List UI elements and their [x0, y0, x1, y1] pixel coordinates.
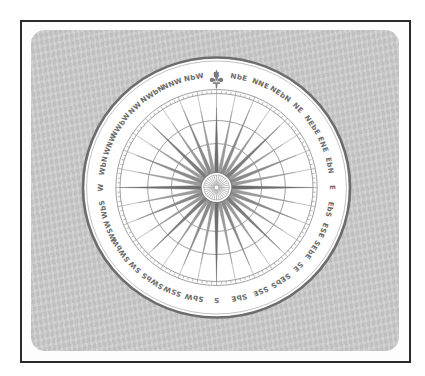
compass-label-e: E [328, 185, 337, 190]
compass-label-w: W [96, 183, 105, 191]
compass-rose: NNbENNENEbNNENEbEENEEbNEEbSESESEbESESEbS… [0, 0, 425, 376]
compass-label-s: S [214, 296, 220, 305]
